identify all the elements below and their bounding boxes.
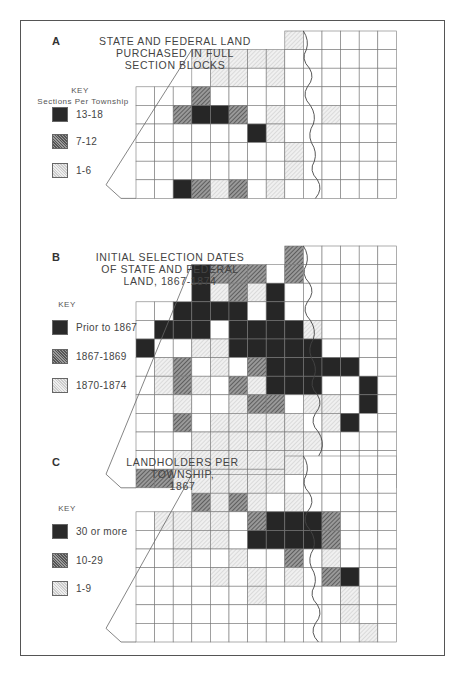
township-cell — [248, 395, 267, 414]
township-cell — [322, 320, 341, 339]
township-cell — [341, 413, 360, 432]
township-cell — [303, 475, 322, 494]
township-cell — [266, 530, 285, 549]
township-cell — [210, 143, 229, 162]
panel-c-key-item: 1-9 — [52, 581, 91, 596]
township-cell — [359, 339, 378, 358]
township-cell — [322, 50, 341, 69]
township-cell — [229, 105, 248, 124]
township-cell — [303, 124, 322, 143]
township-cell — [173, 586, 192, 605]
township-cell — [192, 358, 211, 377]
township-cell — [229, 568, 248, 587]
township-cell — [341, 302, 360, 321]
township-cell — [248, 265, 267, 284]
panel-a-key-subtitle: Sections Per Township — [28, 96, 138, 107]
township-cell — [341, 376, 360, 395]
township-cell — [285, 549, 304, 568]
township-cell — [266, 623, 285, 642]
township-cell — [303, 50, 322, 69]
township-cell — [229, 586, 248, 605]
township-cell — [341, 180, 360, 199]
township-cell — [285, 623, 304, 642]
township-cell — [173, 124, 192, 143]
township-cell — [322, 530, 341, 549]
township-cell — [210, 530, 229, 549]
township-cell — [378, 432, 397, 451]
township-cell — [248, 180, 267, 199]
dark-swatch-icon — [52, 524, 68, 539]
township-cell — [341, 530, 360, 549]
township-cell — [173, 568, 192, 587]
township-cell — [266, 87, 285, 106]
township-cell — [303, 246, 322, 265]
township-cell — [210, 605, 229, 624]
township-cell — [378, 246, 397, 265]
township-cell — [248, 283, 267, 302]
township-cell — [210, 395, 229, 414]
township-cell — [266, 161, 285, 180]
township-cell — [229, 623, 248, 642]
township-cell — [136, 432, 155, 451]
panel-a-key-item: 13-18 — [52, 107, 103, 122]
township-cell — [173, 549, 192, 568]
township-cell — [359, 180, 378, 199]
township-cell — [266, 124, 285, 143]
township-cell — [229, 358, 248, 377]
township-cell — [155, 161, 174, 180]
township-cell — [192, 432, 211, 451]
township-cell — [229, 143, 248, 162]
township-cell — [341, 475, 360, 494]
township-cell — [229, 493, 248, 512]
township-cell — [378, 413, 397, 432]
panel-c-letter: C — [52, 456, 60, 468]
township-cell — [378, 568, 397, 587]
township-cell — [210, 568, 229, 587]
panel-c-key-item: 10-29 — [52, 553, 103, 568]
township-cell — [322, 358, 341, 377]
township-cell — [136, 395, 155, 414]
panel-a-title: STATE AND FEDERAL LAND PURCHASED IN FULL… — [95, 35, 255, 71]
township-cell — [359, 31, 378, 50]
township-cell — [248, 376, 267, 395]
dark-swatch-icon — [52, 320, 68, 335]
township-cell — [210, 376, 229, 395]
panel-a-key-item: 1-6 — [52, 163, 91, 178]
township-cell — [359, 395, 378, 414]
township-cell — [136, 180, 155, 199]
township-cell — [322, 413, 341, 432]
township-cell — [210, 302, 229, 321]
township-cell — [136, 105, 155, 124]
township-cell — [378, 586, 397, 605]
township-cell — [136, 302, 155, 321]
medium-hatch-swatch-icon — [52, 553, 68, 568]
township-cell — [303, 31, 322, 50]
light-swatch-icon — [52, 378, 68, 393]
panel-b-key-title: KEY — [52, 299, 82, 310]
township-cell — [359, 432, 378, 451]
township-cell — [155, 432, 174, 451]
township-cell — [136, 413, 155, 432]
township-cell — [285, 456, 304, 475]
township-cell — [266, 586, 285, 605]
township-cell — [173, 605, 192, 624]
township-cell — [155, 143, 174, 162]
township-cell — [266, 413, 285, 432]
township-cell — [322, 456, 341, 475]
township-cell — [359, 320, 378, 339]
township-cell — [248, 161, 267, 180]
township-cell — [266, 568, 285, 587]
panel-c-key-item: 30 or more — [52, 524, 127, 539]
township-cell — [285, 105, 304, 124]
township-cell — [155, 358, 174, 377]
township-cell — [359, 605, 378, 624]
township-cell — [303, 339, 322, 358]
township-cell — [341, 549, 360, 568]
township-cell — [210, 512, 229, 531]
township-cell — [210, 432, 229, 451]
township-cell — [136, 320, 155, 339]
township-cell — [303, 105, 322, 124]
township-cell — [378, 143, 397, 162]
township-cell — [378, 512, 397, 531]
township-cell — [341, 605, 360, 624]
